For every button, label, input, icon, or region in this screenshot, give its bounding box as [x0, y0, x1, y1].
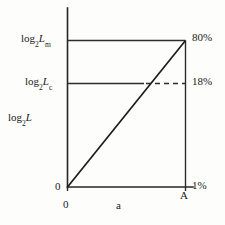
x-tick-label-A: A: [180, 190, 188, 201]
right-label-bottom: 1%: [192, 180, 207, 191]
log2L-base: log: [8, 111, 22, 123]
y-tick-label-log2Lc: log2Lc: [25, 76, 52, 90]
x-origin-label: 0: [63, 199, 69, 210]
log2L-var: L: [26, 111, 32, 123]
x-axis-title: a: [116, 200, 121, 211]
figure-container: log2Lm log2Lc log2L 0 0 a A 80% 18% 1%: [0, 0, 225, 225]
growth-line: [68, 41, 186, 188]
log2Lc-varsub: c: [49, 83, 52, 92]
y-origin-label: 0: [55, 181, 61, 192]
log2Lc-base: log: [25, 75, 39, 87]
log2Lm-varsub: m: [45, 40, 51, 49]
log2L-sub: 2: [22, 119, 26, 128]
log2Lc-sub: 2: [39, 83, 43, 92]
log2Lm-sub: 2: [35, 40, 39, 49]
y-tick-label-log2Lm: log2Lm: [21, 33, 51, 47]
y-axis-title: log2L: [8, 112, 32, 126]
log2Lm-base: log: [21, 32, 35, 44]
right-label-middle: 18%: [192, 76, 212, 87]
right-label-top: 80%: [192, 32, 212, 43]
